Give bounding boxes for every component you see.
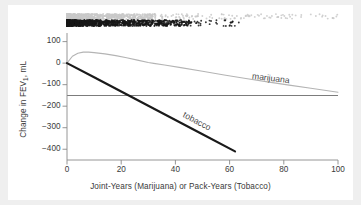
x-tick-label: 20 bbox=[101, 165, 141, 174]
x-tick-label: 80 bbox=[264, 165, 304, 174]
x-tick-label: 100 bbox=[318, 165, 358, 174]
chart-figure: Joint-Years (Marijuana) or Pack-Years (T… bbox=[0, 0, 361, 205]
x-tick-label: 0 bbox=[47, 165, 87, 174]
y-tick-label: −300 bbox=[21, 122, 61, 131]
y-tick-label: −100 bbox=[21, 79, 61, 88]
x-tick-label: 40 bbox=[155, 165, 195, 174]
y-tick-label: 100 bbox=[21, 36, 61, 45]
y-tick-label: 0 bbox=[21, 58, 61, 67]
x-tick-label: 60 bbox=[210, 165, 250, 174]
y-tick-label: −200 bbox=[21, 101, 61, 110]
y-tick-label: −400 bbox=[21, 144, 61, 153]
x-axis-title: Joint-Years (Marijuana) or Pack-Years (T… bbox=[0, 182, 361, 191]
